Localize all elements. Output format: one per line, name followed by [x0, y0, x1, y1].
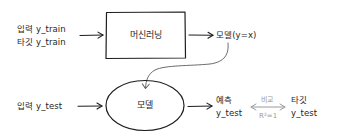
- comparison-top-label: 비교: [261, 96, 273, 104]
- train-target-label: 타깃 y_train: [17, 37, 66, 47]
- diagram-shapes: [0, 0, 337, 139]
- model-output-label: 모델(y=x): [216, 30, 257, 40]
- test-input-label: 입력 y_test: [17, 101, 62, 111]
- prediction-label-line2: y_test: [216, 108, 242, 118]
- diagram-canvas: 입력 y_train 타깃 y_train 머신러닝 모델(y=x) 입력 y_…: [0, 0, 337, 139]
- target-label-line2: y_test: [291, 108, 317, 118]
- target-label-line1: 타깃: [291, 95, 307, 105]
- prediction-label-line1: 예측: [216, 95, 232, 105]
- machine-learning-label: 머신러닝: [106, 30, 186, 40]
- comparison-bottom-label: R²=1: [259, 112, 277, 120]
- model-label: 모델: [106, 100, 184, 110]
- arrow-train-inputs-to-ml: [80, 35, 103, 36]
- arrow-model-to-prediction: [188, 106, 212, 107]
- train-input-label: 입력 y_train: [17, 24, 66, 34]
